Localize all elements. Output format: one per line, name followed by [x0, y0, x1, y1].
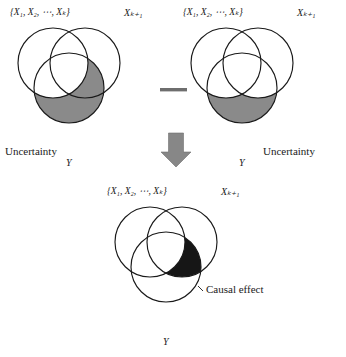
shaded-region-uncertainty-2 [173, 0, 346, 178]
label-set-x-k-plus-1-diagram-1: Xₖ₊₁ [124, 8, 143, 18]
label-set-y-diagram-3: Y [163, 337, 169, 347]
shaded-region-causal-effect [80, 175, 346, 357]
label-causal-effect-diagram-3: Causal effect [206, 284, 264, 295]
venn-figure: {X₁, X₂, ⋯, Xₖ} Xₖ₊₁ Y Uncertainty {X₁, … [0, 0, 346, 357]
venn-diagram-canvas [0, 0, 346, 357]
diagram-result [80, 175, 346, 357]
label-set-y-diagram-2: Y [239, 158, 245, 168]
label-set-y-diagram-1: Y [66, 158, 72, 168]
causal-effect-leader-line [198, 286, 203, 291]
label-set-x-1-to-k-diagram-1: {X₁, X₂, ⋯, Xₖ} [10, 8, 70, 18]
label-set-x-k-plus-1-diagram-3: Xₖ₊₁ [221, 187, 240, 197]
label-set-x-1-to-k-diagram-3: {X₁, X₂, ⋯, Xₖ} [107, 187, 167, 197]
label-uncertainty-diagram-1: Uncertainty [5, 146, 57, 157]
label-uncertainty-diagram-2: Uncertainty [263, 146, 315, 157]
diagram-subtrahend [173, 0, 346, 178]
label-set-x-k-plus-1-diagram-2: Xₖ₊₁ [297, 8, 316, 18]
label-set-x-1-to-k-diagram-2: {X₁, X₂, ⋯, Xₖ} [183, 8, 243, 18]
